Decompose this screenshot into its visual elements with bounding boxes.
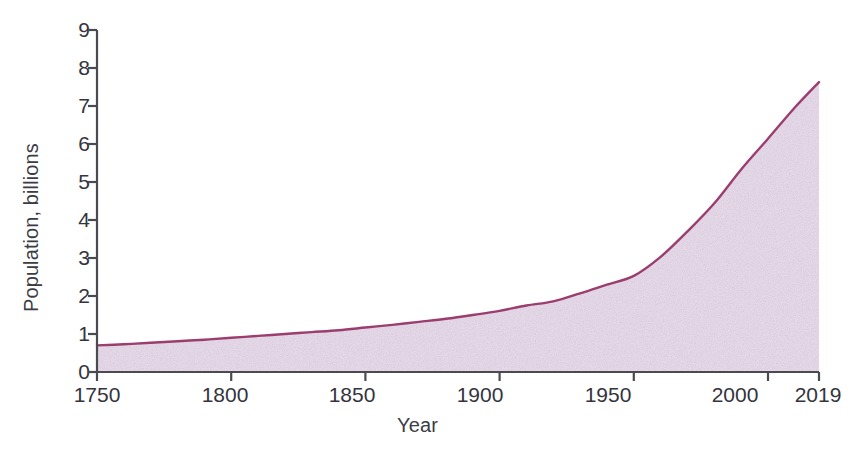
x-axis-ticks [97, 372, 819, 381]
population-area-fill [97, 82, 819, 372]
y-axis-ticks [88, 30, 97, 372]
population-area-chart: Population, billions Year 9 8 7 6 5 4 3 … [0, 0, 867, 458]
area-fill-group [97, 82, 819, 372]
plot-area [0, 0, 867, 458]
